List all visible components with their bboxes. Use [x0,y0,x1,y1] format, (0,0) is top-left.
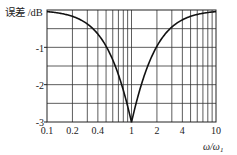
y-tick-minus2: -2 [36,80,44,91]
error-chart: 误差 /dB -1 -2 -3 0.10.20.412410 ω/ω1 [0,0,237,155]
x-tick-labels: 0.10.20.412410 [41,125,221,136]
x-tick-label: 2 [154,125,159,136]
x-tick-label: 1 [129,125,134,136]
x-axis-label: ω/ω1 [203,141,223,154]
x-tick-label: 0.4 [92,125,105,136]
y-tick-minus1: -1 [36,43,44,54]
x-tick-label: 0.2 [66,125,79,136]
x-tick-label: 4 [180,125,185,136]
y-axis-label: 误差 /dB [5,6,43,18]
x-tick-label: 0.1 [41,125,54,136]
x-tick-label: 10 [211,125,221,136]
grid [44,10,216,122]
